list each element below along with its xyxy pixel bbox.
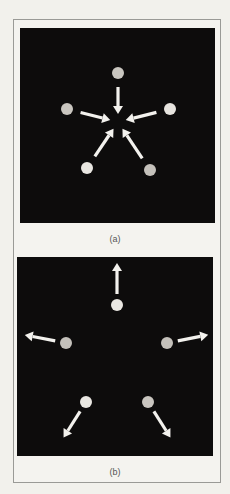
arrows-outward bbox=[25, 263, 208, 437]
dot bbox=[60, 337, 72, 349]
arrow-shaft bbox=[127, 135, 142, 158]
panel-a-label: (a) bbox=[0, 234, 230, 244]
arrow-head-icon bbox=[101, 113, 110, 123]
dot bbox=[144, 164, 156, 176]
arrow-head-icon bbox=[113, 106, 123, 114]
dot bbox=[164, 103, 176, 115]
arrow-head-icon bbox=[199, 331, 208, 341]
dot bbox=[142, 396, 154, 408]
panel-b-diverging bbox=[17, 257, 213, 456]
arrow-head-icon bbox=[126, 113, 135, 123]
arrow-shaft bbox=[81, 112, 103, 118]
arrow-shaft bbox=[95, 135, 109, 156]
arrow-head-icon bbox=[25, 332, 34, 342]
arrow-shaft bbox=[154, 411, 166, 430]
dot bbox=[112, 67, 124, 79]
dot bbox=[81, 162, 93, 174]
dot bbox=[161, 337, 173, 349]
arrow-shaft bbox=[68, 411, 80, 430]
diverging-arrows-diagram bbox=[17, 257, 213, 456]
arrow-shaft bbox=[134, 112, 157, 118]
dot bbox=[111, 299, 123, 311]
arrows-inward bbox=[81, 87, 157, 158]
dots bbox=[61, 67, 176, 176]
dot bbox=[80, 396, 92, 408]
dots bbox=[60, 299, 173, 408]
panel-a-converging bbox=[20, 28, 215, 223]
arrow-head-icon bbox=[112, 263, 122, 271]
arrow-shaft bbox=[178, 336, 201, 341]
panel-b-label: (b) bbox=[0, 467, 230, 477]
arrow-shaft bbox=[33, 336, 56, 340]
converging-arrows-diagram bbox=[20, 28, 215, 223]
dot bbox=[61, 103, 73, 115]
